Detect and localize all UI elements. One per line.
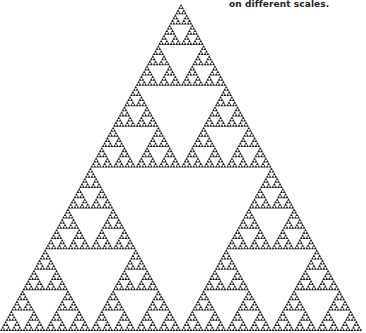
fractal-cells <box>0 4 362 331</box>
sierpinski-triangle-diagram <box>0 0 366 333</box>
